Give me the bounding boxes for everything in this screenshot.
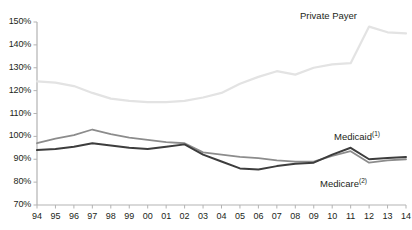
x-axis-tick-label: 99 [119, 211, 139, 221]
y-axis-tick-label: 130% [9, 62, 31, 72]
y-axis-tick-label: 110% [9, 108, 31, 118]
x-axis-tick-label: 01 [156, 211, 176, 221]
medicare-label: Medicare(2) [320, 178, 367, 189]
series-line-private-payer [37, 27, 406, 102]
x-axis-tick-label: 08 [285, 211, 305, 221]
x-axis-tick-label: 13 [378, 211, 398, 221]
private-payer-label: Private Payer [300, 10, 357, 21]
y-axis-tick-label: 90% [14, 153, 31, 163]
x-axis-tick-label: 00 [138, 211, 158, 221]
chart-plot-area [0, 0, 412, 230]
x-axis-tick-label: 04 [212, 211, 232, 221]
medicaid-label-text: Medicaid [334, 131, 372, 142]
x-axis-tick-label: 02 [175, 211, 195, 221]
medicaid-label-footnote-marker: (1) [372, 130, 380, 137]
x-axis-tick-label: 12 [359, 211, 379, 221]
y-axis-tick-label: 100% [9, 130, 31, 140]
series-line-medicare [37, 143, 406, 169]
x-axis-tick-label: 09 [304, 211, 324, 221]
x-axis-tick-label: 06 [248, 211, 268, 221]
chart-container: 70%80%90%100%110%120%130%140%150%9495969… [0, 0, 412, 230]
y-axis-tick-label: 80% [14, 176, 31, 186]
y-axis-tick-label: 120% [9, 85, 31, 95]
y-axis-tick-label: 70% [14, 199, 31, 209]
y-axis-tick-label: 150% [9, 16, 31, 26]
y-axis-tick-label: 140% [9, 39, 31, 49]
x-axis-tick-label: 11 [341, 211, 361, 221]
medicare-label-text: Medicare [320, 178, 359, 189]
x-axis-tick-label: 94 [27, 211, 47, 221]
x-axis-tick-label: 10 [322, 211, 342, 221]
x-axis-tick-label: 95 [45, 211, 65, 221]
medicaid-label: Medicaid(1) [334, 131, 380, 142]
x-axis-tick-label: 03 [193, 211, 213, 221]
x-axis-tick-label: 98 [101, 211, 121, 221]
x-axis-tick-label: 14 [396, 211, 412, 221]
x-axis-tick-label: 97 [82, 211, 102, 221]
private-payer-label-text: Private Payer [300, 10, 357, 21]
medicare-label-footnote-marker: (2) [359, 177, 367, 184]
x-axis-tick-label: 07 [267, 211, 287, 221]
x-axis-tick-label: 05 [230, 211, 250, 221]
x-axis-tick-label: 96 [64, 211, 84, 221]
